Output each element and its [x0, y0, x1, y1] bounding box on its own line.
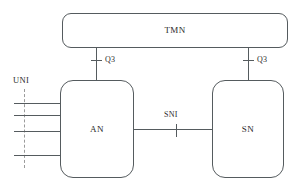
connector-tmn-an — [96, 48, 97, 80]
interface-marker-q3-right-icon — [243, 60, 254, 61]
interface-label-q3-left: Q3 — [105, 56, 115, 64]
node-sn[interactable]: SN — [212, 80, 284, 178]
uni-access-line — [14, 155, 60, 156]
interface-marker-q3-left-icon — [91, 60, 102, 61]
node-tmn[interactable]: TMN — [62, 13, 288, 48]
node-an-label: AN — [90, 125, 104, 134]
uni-access-line — [14, 131, 60, 132]
uni-boundary-line — [24, 89, 25, 168]
diagram-canvas: TMN AN SN Q3 Q3 SNI UNI — [0, 0, 296, 192]
interface-label-uni: UNI — [13, 76, 29, 85]
uni-access-line — [14, 115, 60, 116]
connector-tmn-sn — [248, 48, 249, 80]
node-sn-label: SN — [242, 125, 254, 134]
node-an[interactable]: AN — [60, 80, 134, 178]
uni-access-line — [14, 103, 60, 104]
node-tmn-label: TMN — [164, 26, 185, 35]
connector-an-sn — [134, 129, 212, 130]
interface-label-q3-right: Q3 — [257, 56, 267, 64]
interface-marker-sni-icon — [176, 124, 177, 137]
interface-label-sni: SNI — [164, 111, 178, 119]
